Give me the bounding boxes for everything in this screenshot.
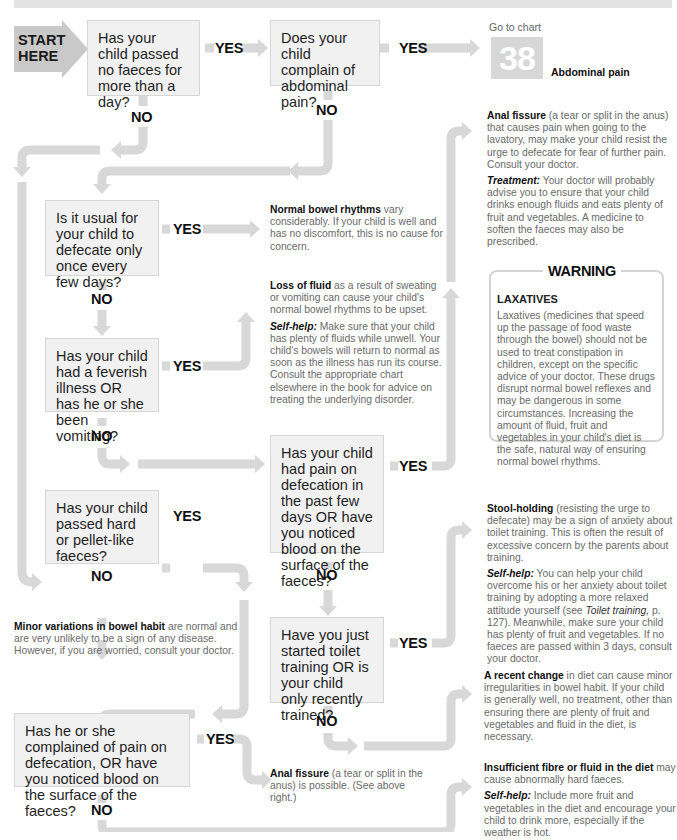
yes-label-q6: YES — [173, 508, 201, 524]
no-label-q2: NO — [316, 102, 337, 118]
no-label-q3: NO — [91, 291, 112, 307]
no-label-q1: NO — [131, 109, 152, 125]
no-label-q8: NO — [91, 802, 112, 818]
yes-label-q2: YES — [399, 40, 427, 56]
outcome-minor-variations: Minor variations in bowel habit are norm… — [14, 621, 249, 662]
goto-chart-prefix: Go to chart — [489, 21, 541, 33]
yes-label-q7: YES — [399, 635, 427, 651]
question-box-toilet-training: Have you just started toilet training OR… — [270, 617, 384, 703]
question-box-pain-on-defecation: Has your child had pain on defecation in… — [270, 435, 384, 553]
outcome-normal-bowel-rhythms: Normal bowel rhythms vary considerably. … — [270, 204, 445, 257]
warning-text: Laxatives (medicines that speed up the p… — [497, 310, 657, 469]
warning-title: WARNING — [543, 263, 621, 279]
question-box-abdominal-pain: Does your child complain of abdominal pa… — [270, 20, 380, 86]
start-here-label: START HERE — [18, 32, 65, 64]
outcome-recent-change: A recent change in diet can cause minor … — [484, 670, 674, 747]
outcome-insufficient-fibre: Insufficient fibre or fluid in the diet … — [484, 762, 676, 840]
question-box-once-every-few-days: Is it usual for your child to defecate o… — [45, 200, 159, 276]
no-label-q6: NO — [91, 568, 112, 584]
yes-label-q3: YES — [173, 221, 201, 237]
warning-heading: LAXATIVES — [497, 293, 558, 305]
yes-label-q4: YES — [173, 358, 201, 374]
question-box-complained-of-pain: Has he or she complained of pain on defe… — [14, 713, 190, 787]
yes-label-q1: YES — [215, 40, 243, 56]
yes-label-q5: YES — [399, 458, 427, 474]
question-box-feverish-illness: Has your child had a feverish illness OR… — [45, 338, 159, 412]
no-label-q5: NO — [316, 567, 337, 583]
question-box-hard-faeces: Has your child passed hard or pellet-lik… — [45, 490, 159, 564]
outcome-stool-holding: Stool-holding (resisting the urge to def… — [487, 503, 673, 670]
chart-number-badge[interactable]: 38 — [491, 37, 543, 79]
yes-label-q8: YES — [206, 731, 234, 747]
outcome-anal-fissure: Anal fissure (a tear or split in the anu… — [487, 110, 672, 252]
outcome-loss-of-fluid: Loss of fluid as a result of sweating or… — [270, 280, 445, 410]
outcome-anal-fissure-possible: Anal fissure (a tear or split in the anu… — [270, 768, 430, 809]
goto-chart-title[interactable]: Abdominal pain — [551, 66, 630, 78]
question-box-no-faeces: Has your child passed no faeces for more… — [87, 20, 200, 96]
no-label-q4: NO — [91, 428, 112, 444]
no-label-q7: NO — [316, 713, 337, 729]
